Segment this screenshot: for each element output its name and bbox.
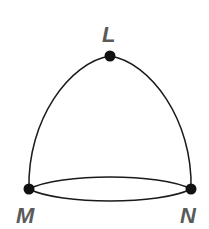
vertex-n (186, 184, 197, 195)
vertex-label-m: M (16, 203, 35, 228)
edge-m-l (29, 56, 110, 189)
vertex-m (24, 184, 35, 195)
edge-l-n (110, 56, 191, 189)
graph-diagram: L M N (0, 0, 209, 229)
edge-m-n-lower (29, 189, 191, 201)
vertex-label-l: L (102, 22, 115, 47)
edge-m-n-upper (29, 177, 191, 189)
vertex-l (105, 51, 116, 62)
vertex-label-n: N (180, 203, 197, 228)
